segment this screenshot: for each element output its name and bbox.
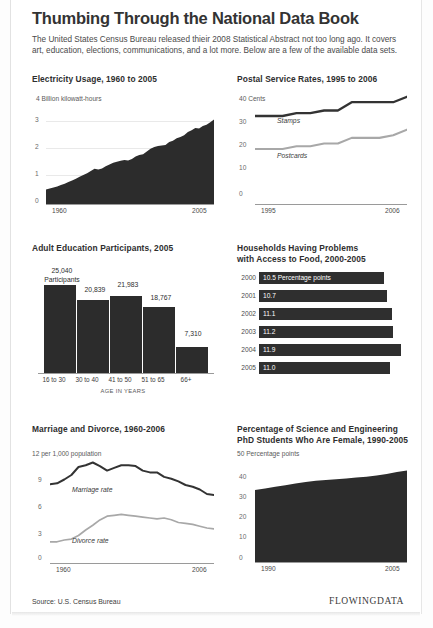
ytick-9: 9 xyxy=(38,476,42,483)
infographic-page: Thumbing Through the National Data Book … xyxy=(0,0,433,628)
ytick-3: 3 xyxy=(35,116,39,123)
xtick-end-electricity: 2005 xyxy=(192,207,207,214)
line-path-postcards xyxy=(255,130,407,149)
chart-panel-food-access: Households Having Problems with Access t… xyxy=(237,243,409,398)
xtick-start-marriage: 1960 xyxy=(56,566,71,573)
xaxis-adult-education xyxy=(38,373,214,374)
page-title: Thumbing Through the National Data Book xyxy=(32,8,402,28)
sheet-shadow xyxy=(12,612,420,616)
line-plot-marriage-divorce xyxy=(50,452,214,562)
chart-title-food-access-line1: Households Having Problems xyxy=(237,243,409,254)
ytick-3: 3 xyxy=(38,530,42,537)
chart-unit-label-phd: 50 Percentage points xyxy=(237,450,299,457)
xaxis-title-adult-education: AGE IN YEARS xyxy=(32,388,214,394)
ytick-1: 1 xyxy=(35,170,39,177)
xaxis-marriage-divorce xyxy=(50,563,214,564)
series-label-marriage: Marriage rate xyxy=(72,486,112,493)
row-year-2000: 2000 xyxy=(237,274,256,281)
chart-title-marriage-divorce: Marriage and Divorce, 1960-2006 xyxy=(32,424,214,435)
bar-51-to-65 xyxy=(143,307,175,373)
bar-16-to-30 xyxy=(44,285,76,373)
xtick-end-marriage: 2006 xyxy=(192,566,207,573)
ytick-0-md: 0 xyxy=(38,554,42,561)
xtick-start-postal: 1995 xyxy=(261,207,276,214)
xaxis-electricity xyxy=(46,204,214,205)
row-year-2005: 2005 xyxy=(237,364,256,371)
xtick-start-electricity: 1960 xyxy=(52,207,67,214)
row-year-2001: 2001 xyxy=(237,292,256,299)
row-year-2002: 2002 xyxy=(237,310,256,317)
hbar-2002: 11.1 xyxy=(259,308,392,320)
xtick-end-postal: 2006 xyxy=(385,207,400,214)
hbar-2005: 11.0 xyxy=(259,362,390,374)
bar-value-0: 25,040 xyxy=(40,267,84,274)
brand-logo: FLOWINGDATA xyxy=(329,596,404,606)
area-plot-electricity xyxy=(46,94,214,204)
xaxis-postal xyxy=(255,204,407,205)
hbar-value-2001: 10.7 xyxy=(263,290,276,301)
table-row-2004: 2004 11.9 xyxy=(237,344,409,358)
line-path-stamps xyxy=(255,97,407,116)
ytick-10-phd: 10 xyxy=(239,533,246,540)
chart-title-phd-line1: Percentage of Science and Engineering xyxy=(237,424,409,435)
chart-panel-adult-education: Adult Education Participants, 2005 25,04… xyxy=(32,243,214,398)
ytick-30: 30 xyxy=(239,118,246,125)
xtick-end-phd: 2005 xyxy=(385,565,400,572)
chart-title-food-access-line2: with Access to Food, 2000-2005 xyxy=(237,254,409,265)
source-note: Source: U.S. Census Bureau xyxy=(32,598,120,605)
hbar-value-2002: 11.1 xyxy=(263,308,275,319)
hbar-value-2003: 11.2 xyxy=(263,326,275,337)
hbar-2001: 10.7 xyxy=(259,290,387,302)
chart-panel-electricity: Electricity Usage, 1960 to 2005 4 Billio… xyxy=(32,74,214,214)
row-year-2003: 2003 xyxy=(237,328,256,335)
chart-panel-postal: Postal Service Rates, 1995 to 2006 40 Ce… xyxy=(237,74,409,214)
series-label-divorce: Divorce rate xyxy=(72,537,109,544)
hbar-2000: 10.5 Percentage points xyxy=(259,272,384,284)
chart-title-electricity: Electricity Usage, 1960 to 2005 xyxy=(32,74,214,85)
bars-container xyxy=(38,285,214,373)
ytick-20: 20 xyxy=(239,141,246,148)
chart-panel-phd-female: Percentage of Science and Engineering Ph… xyxy=(237,424,409,584)
bar-unit-label: Participants xyxy=(38,276,86,283)
hbar-2004: 11.9 xyxy=(259,344,401,356)
ytick-6: 6 xyxy=(38,503,42,510)
series-label-postcards: Postcards xyxy=(277,152,307,159)
ytick-10: 10 xyxy=(239,164,246,171)
hbar-value-2004: 11.9 xyxy=(263,344,275,355)
series-label-stamps: Stamps xyxy=(277,117,300,124)
ytick-0-phd: 0 xyxy=(239,554,243,561)
line-plot-postal xyxy=(255,94,407,204)
row-year-2004: 2004 xyxy=(237,346,256,353)
table-row-2002: 2002 11.1 xyxy=(237,308,409,322)
ytick-0: 0 xyxy=(239,190,243,197)
ytick-30-phd: 30 xyxy=(239,493,246,500)
table-row-2005: 2005 11.0 xyxy=(237,362,409,376)
header: Thumbing Through the National Data Book … xyxy=(32,8,402,57)
table-row-2000: 2000 10.5 Percentage points xyxy=(237,272,409,286)
table-row-2001: 2001 10.7 xyxy=(237,290,409,304)
ytick-40-phd: 40 xyxy=(239,473,246,480)
bar-41-to-50 xyxy=(110,296,142,373)
ytick-2: 2 xyxy=(35,143,39,150)
ytick-20-phd: 20 xyxy=(239,513,246,520)
area-path-phd xyxy=(255,470,407,562)
bar-category-4: 66+ xyxy=(164,376,208,383)
bar-66-plus xyxy=(176,347,208,373)
ytick-0: 0 xyxy=(35,197,39,204)
area-plot-phd xyxy=(255,462,407,562)
footer: Source: U.S. Census Bureau FLOWINGDATA xyxy=(32,596,404,606)
chart-title-postal: Postal Service Rates, 1995 to 2006 xyxy=(237,74,409,85)
bar-30-to-40 xyxy=(77,300,109,373)
chart-panel-marriage-divorce: Marriage and Divorce, 1960-2006 12 per 1… xyxy=(32,424,214,584)
hbar-2003: 11.2 xyxy=(259,326,393,338)
hbar-value-2000: 10.5 Percentage points xyxy=(263,272,331,283)
hbar-value-2005: 11.0 xyxy=(263,362,275,373)
chart-title-phd-line2: PhD Students Who Are Female, 1990-2005 xyxy=(237,435,409,446)
chart-title-adult-education: Adult Education Participants, 2005 xyxy=(32,243,214,254)
xtick-start-phd: 1990 xyxy=(261,565,276,572)
area-path-electricity xyxy=(46,120,214,205)
intro-paragraph: The United States Census Bureau released… xyxy=(32,34,402,57)
table-row-2003: 2003 11.2 xyxy=(237,326,409,340)
xaxis-phd xyxy=(255,562,407,563)
